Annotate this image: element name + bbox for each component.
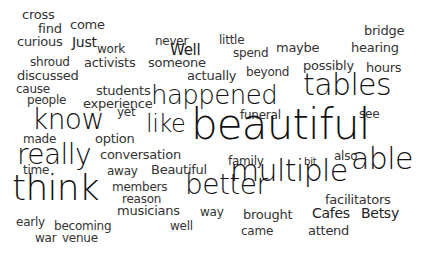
word-spend: spend <box>233 47 268 59</box>
word-betsy: Betsy <box>361 206 399 220</box>
word-activists: activists <box>84 56 135 69</box>
word-yet: yet <box>117 106 135 118</box>
word-cafes: Cafes <box>312 206 350 220</box>
word-beyond: beyond <box>246 66 289 78</box>
word-cloud: crossfindcomecuriousJustworkshroudactivi… <box>0 0 425 260</box>
word-like: like <box>146 112 185 136</box>
word-know: know <box>32 106 104 134</box>
word-maybe: maybe <box>276 41 319 54</box>
word-discussed: discussed <box>17 69 78 82</box>
word-cross: cross <box>22 8 54 21</box>
word-think: think <box>12 170 99 206</box>
word-well: well <box>170 220 193 232</box>
word-come: come <box>70 18 105 31</box>
word-bridge: bridge <box>364 24 404 37</box>
word-option: option <box>95 132 135 145</box>
word-conversation: conversation <box>100 148 181 161</box>
word-better: better <box>185 171 267 199</box>
word-tables: tables <box>303 70 391 100</box>
word-beautiful: beautiful <box>191 104 370 146</box>
word-musicians: musicians <box>117 204 180 217</box>
word-work: work <box>97 43 125 55</box>
word-war: war <box>35 232 56 244</box>
word-venue: venue <box>62 232 98 244</box>
word-shroud: shroud <box>30 56 70 68</box>
word-brought: brought <box>243 208 292 221</box>
word-away: away <box>107 165 138 177</box>
word-little: little <box>219 34 244 46</box>
word-hearing: hearing <box>351 41 399 54</box>
word-curious: curious <box>17 35 63 48</box>
word-early: early <box>16 216 45 228</box>
word-able: able <box>351 144 413 174</box>
word-just: Just <box>72 35 97 49</box>
word-came: came <box>241 225 273 237</box>
word-way: way <box>200 206 224 218</box>
word-attend: attend <box>308 224 349 237</box>
